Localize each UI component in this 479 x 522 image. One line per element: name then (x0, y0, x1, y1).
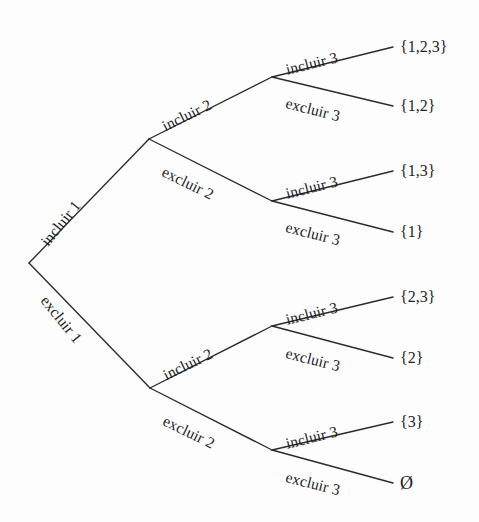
leaf-label-leaf-empty: Ø (400, 474, 413, 492)
leaf-label-leaf-3: {3} (400, 414, 423, 430)
leaf-label-leaf-2: {2} (400, 350, 423, 366)
leaf-label-leaf-23: {2,3} (400, 289, 435, 305)
leaf-label-leaf-1: {1} (400, 224, 423, 240)
tree-branches-svg (0, 0, 479, 522)
decision-tree-figure: incluir 1excluir 1incluir 2excluir 2incl… (0, 0, 479, 522)
seg-root-excluir1 (29, 263, 150, 388)
leaf-label-leaf-13: {1,3} (400, 163, 435, 179)
leaf-label-leaf-12: {1,2} (400, 98, 435, 114)
leaf-label-leaf-123: {1,2,3} (400, 39, 447, 55)
